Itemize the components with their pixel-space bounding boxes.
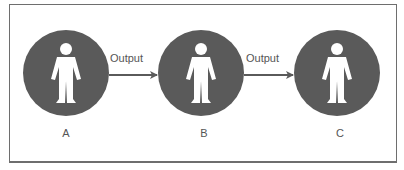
diagram-canvas: Output Output A B C [0,0,404,170]
edge-a-b: Output [109,52,157,75]
node-label-c: C [336,127,344,139]
node-a: A [23,30,109,139]
edge-label-b-c: Output [246,52,279,64]
node-label-a: A [62,127,70,139]
node-c: C [294,30,380,139]
edge-b-c: Output [244,52,293,75]
node-b: B [158,30,244,139]
node-label-b: B [200,127,207,139]
edge-label-a-b: Output [110,52,143,64]
